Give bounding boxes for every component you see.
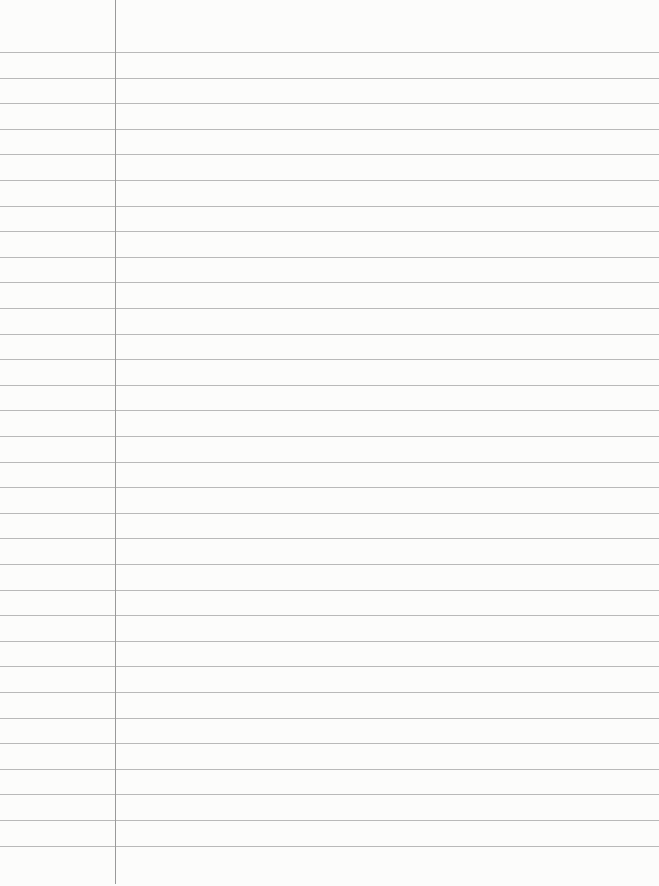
ruled-line xyxy=(0,52,659,53)
ruled-line xyxy=(0,257,659,258)
ruled-line xyxy=(0,564,659,565)
ruled-line xyxy=(0,769,659,770)
ruled-line xyxy=(0,487,659,488)
ruled-line xyxy=(0,641,659,642)
ruled-line xyxy=(0,666,659,667)
ruled-line xyxy=(0,692,659,693)
ruled-line xyxy=(0,308,659,309)
ruled-line xyxy=(0,590,659,591)
ruled-line xyxy=(0,743,659,744)
ruled-line xyxy=(0,538,659,539)
ruled-line xyxy=(0,615,659,616)
ruled-line xyxy=(0,794,659,795)
notebook-page xyxy=(0,0,659,886)
ruled-line xyxy=(0,846,659,847)
ruled-line xyxy=(0,180,659,181)
ruled-line xyxy=(0,359,659,360)
margin-line xyxy=(115,0,116,884)
ruled-line xyxy=(0,103,659,104)
ruled-line xyxy=(0,334,659,335)
ruled-line xyxy=(0,513,659,514)
ruled-line xyxy=(0,436,659,437)
ruled-line xyxy=(0,385,659,386)
ruled-line xyxy=(0,129,659,130)
ruled-line xyxy=(0,78,659,79)
ruled-line xyxy=(0,282,659,283)
ruled-line xyxy=(0,820,659,821)
ruled-line xyxy=(0,462,659,463)
ruled-line xyxy=(0,231,659,232)
ruled-line xyxy=(0,154,659,155)
ruled-line xyxy=(0,718,659,719)
ruled-line xyxy=(0,206,659,207)
ruled-line xyxy=(0,410,659,411)
